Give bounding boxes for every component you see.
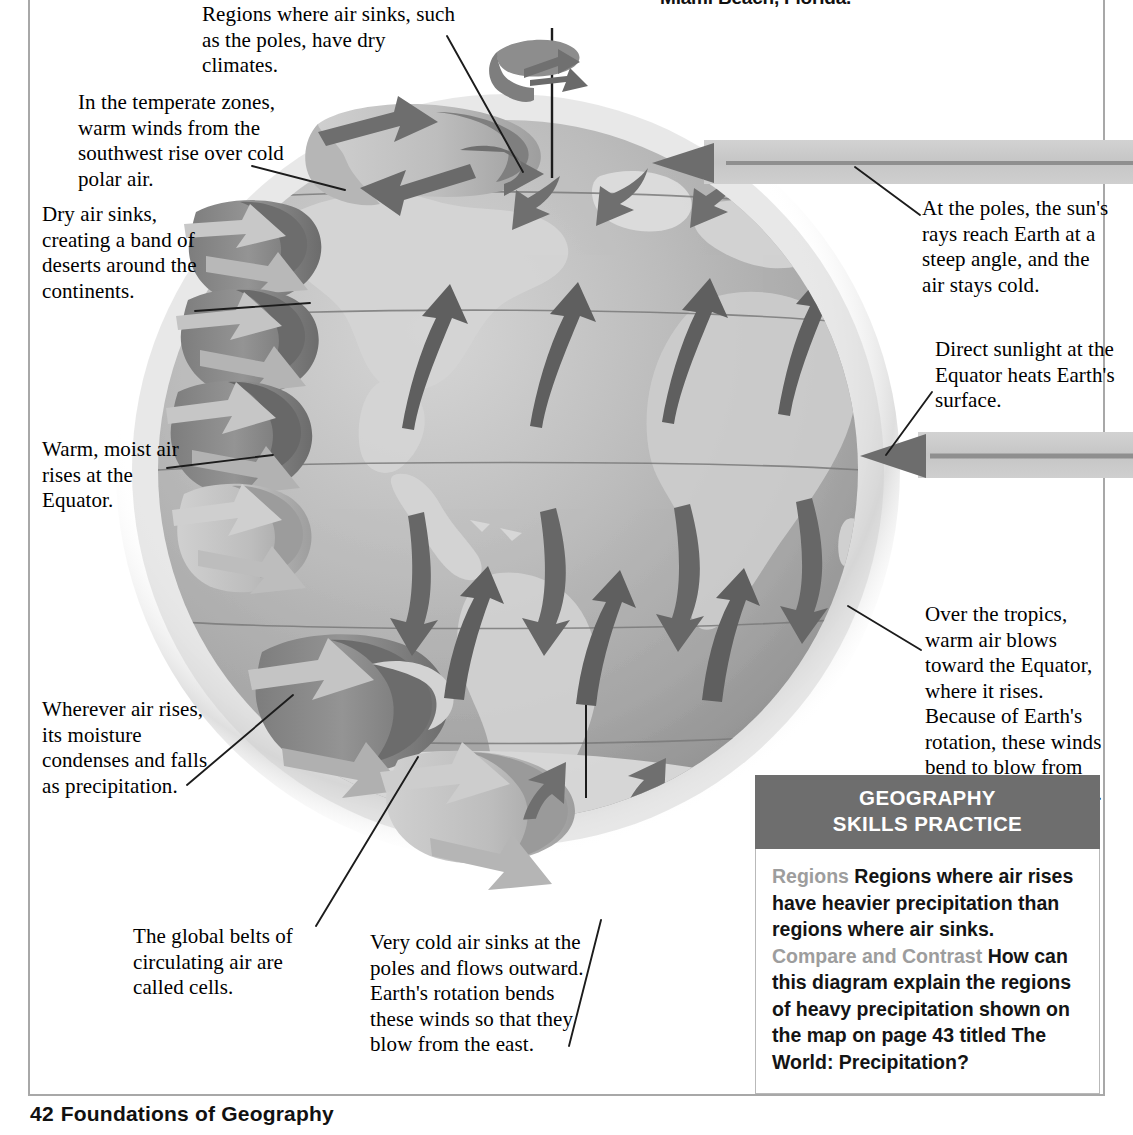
page-footer: 42Foundations of Geography [30,1102,334,1126]
callout-temperate-zones: In the temperate zones, warm winds from … [78,90,328,192]
skills-item2-lead: Compare and Contrast [772,945,982,967]
callout-direct-sunlight-equator: Direct sunlight at the Equator heats Ear… [935,337,1115,414]
callout-warm-moist-air: Warm, moist air rises at the Equator. [42,437,187,514]
skills-practice-header: GEOGRAPHY SKILLS PRACTICE [755,775,1100,849]
sunlight-ray-equator [860,432,1133,478]
callout-very-cold-air-sinks: Very cold air sinks at the poles and flo… [370,930,585,1058]
skills-practice-body: Regions Regions where air rises have hea… [755,849,1100,1094]
callout-dry-air-sinks: Dry air sinks, creating a band of desert… [42,202,207,304]
skills-item1-lead: Regions [772,865,849,887]
callout-poles-sun-rays: At the poles, the sun's rays reach Earth… [922,196,1112,298]
geography-skills-practice-box: GEOGRAPHY SKILLS PRACTICE Regions Region… [755,775,1100,1094]
skills-practice-header-line2: SKILLS PRACTICE [761,811,1094,837]
footer-page-number: 42 [30,1102,54,1125]
callout-global-belts-cells: The global belts of circulating air are … [133,924,303,1001]
callout-moisture-condenses: Wherever air rises, its moisture condens… [42,697,227,799]
footer-chapter-title: Foundations of Geography [61,1102,334,1125]
callout-poles-dry-climates: Regions where air sinks, such as the pol… [202,2,457,79]
skills-practice-header-line1: GEOGRAPHY [761,785,1094,811]
sunlight-ray-polar [652,140,1133,184]
